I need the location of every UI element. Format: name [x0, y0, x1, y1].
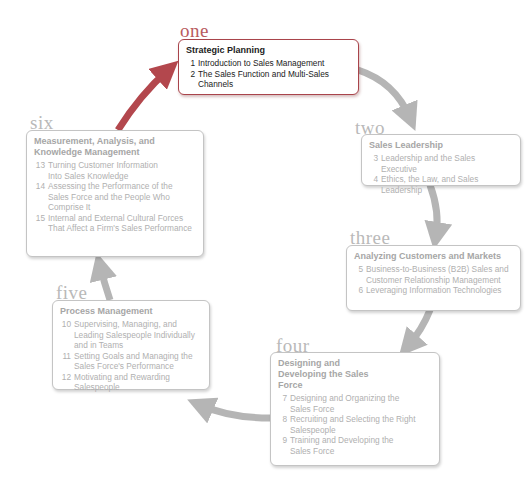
stage-box-analyzing-customers: Analyzing Customers and Markets 5 Busine…	[346, 245, 521, 311]
stage-title: Measurement, Analysis, and Knowledge Man…	[34, 136, 159, 158]
arrow-three-to-four	[408, 310, 430, 346]
stage-label-one: one	[180, 21, 209, 40]
stage-box-measurement-analysis: Measurement, Analysis, and Knowledge Man…	[26, 130, 204, 257]
chapter-item: 4 Ethics, the Law, and Sales Leadership	[369, 174, 513, 195]
stage-title: Designing and Developing the Sales Force	[278, 358, 388, 391]
chapter-item: 9 Training and Developing the Sales Forc…	[278, 435, 398, 456]
chapter-item: 15 Internal and External Cultural Forces…	[34, 213, 196, 234]
stage-title: Strategic Planning	[186, 45, 351, 56]
stage-box-strategic-planning: Strategic Planning 1 Introduction to Sal…	[178, 39, 359, 95]
chapter-item: 11 Setting Goals and Managing the Sales …	[60, 351, 202, 372]
chapter-item: 13 Turning Customer Information Into Sal…	[34, 160, 159, 181]
stage-box-process-management: Process Management 10 Supervising, Manag…	[52, 300, 210, 390]
stage-title: Process Management	[60, 306, 202, 317]
chapter-item: 14 Assessing the Performance of the Sale…	[34, 181, 184, 213]
arrow-six-to-one	[118, 70, 168, 130]
chapter-item: 5 Business-to-Business (B2B) Sales and C…	[354, 264, 513, 285]
stage-box-sales-leadership: Sales Leadership 3 Leadership and the Sa…	[361, 134, 521, 186]
chapter-item: 3 Leadership and the Sales Executive	[369, 153, 513, 174]
chapter-item: 2 The Sales Function and Multi-Sales Cha…	[186, 69, 351, 90]
chapter-item: 10 Supervising, Managing, and Leading Sa…	[60, 319, 202, 351]
stage-title: Sales Leadership	[369, 140, 513, 151]
arrow-four-to-five	[200, 405, 270, 418]
chapter-item: 1 Introduction to Sales Management	[186, 58, 351, 69]
chapter-item: 12 Motivating and Rewarding Salespeople	[60, 372, 170, 393]
arrow-five-to-six	[100, 266, 110, 300]
stage-title: Analyzing Customers and Markets	[354, 251, 513, 262]
chapter-item: 8 Recruiting and Selecting the Right Sal…	[278, 414, 418, 435]
chapter-item: 7 Designing and Organizing the Sales For…	[278, 393, 403, 414]
stage-box-designing-developing: Designing and Developing the Sales Force…	[270, 352, 440, 466]
chapter-item: 6 Leveraging Information Technologies	[354, 285, 513, 296]
arrow-one-to-two	[358, 70, 410, 118]
